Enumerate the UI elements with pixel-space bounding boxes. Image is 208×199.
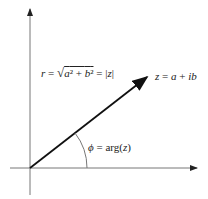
complex-plane-diagram <box>0 0 208 199</box>
angle-arc <box>75 133 87 168</box>
angle-label: ϕ = arg(z) <box>88 141 131 153</box>
point-label: z = a + ib <box>155 70 197 82</box>
modulus-label: r = √a² + b² = |z| <box>41 65 114 81</box>
vector-z <box>30 77 147 168</box>
